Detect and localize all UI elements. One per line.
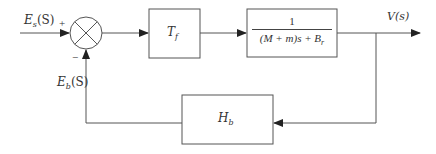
feedback-return-line (86, 50, 182, 123)
tf-block-label: Tf (167, 25, 178, 41)
input-label: Es(S) (24, 13, 54, 29)
hb-block-label: Hb (218, 111, 234, 127)
plant-numerator: 1 (252, 15, 332, 27)
minus-sign: − (72, 51, 78, 63)
feedback-signal-label: Eb(S) (57, 75, 88, 91)
plus-sign: + (59, 17, 65, 29)
summing-junction (70, 17, 102, 49)
output-label: V(s) (387, 10, 409, 23)
fraction-bar (252, 29, 332, 30)
plant-denominator: (M + m)s + Br (252, 32, 332, 47)
plant-transfer-function: 1 (M + m)s + Br (252, 15, 332, 47)
